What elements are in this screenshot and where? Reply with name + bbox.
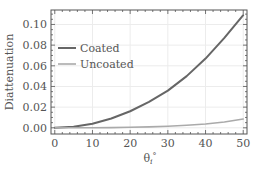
x-tick-label: 20 xyxy=(123,137,137,150)
x-tick-label: 50 xyxy=(236,137,250,150)
axis-ticks xyxy=(51,10,247,134)
legend-label-coated: Coated xyxy=(80,42,120,55)
y-tick-label: 0.10 xyxy=(23,18,48,31)
x-tick-label: 30 xyxy=(161,137,175,150)
y-tick-label: 0.04 xyxy=(23,80,48,93)
x-tick-label: 10 xyxy=(85,137,99,150)
diattenuation-chart: 01020304050 0.000.020.040.060.080.10 Dia… xyxy=(0,0,263,171)
y-tick-label: 0.00 xyxy=(23,122,48,135)
y-tick-label: 0.08 xyxy=(23,39,48,52)
y-axis-label: Diattenuation xyxy=(3,34,16,111)
x-axis-label-sup: ° xyxy=(153,151,157,160)
series-line-coated xyxy=(55,15,243,128)
legend: CoatedUncoated xyxy=(58,42,134,71)
x-tick-labels: 01020304050 xyxy=(51,137,250,150)
x-axis-label: θi° xyxy=(143,151,156,166)
plot-frame xyxy=(51,10,247,134)
x-tick-label: 40 xyxy=(199,137,213,150)
legend-label-uncoated: Uncoated xyxy=(80,58,134,71)
series-line-uncoated xyxy=(55,119,243,128)
data-series xyxy=(55,15,243,128)
y-tick-label: 0.06 xyxy=(23,60,48,73)
grid-lines xyxy=(51,10,247,134)
y-tick-label: 0.02 xyxy=(23,101,48,114)
y-tick-labels: 0.000.020.040.060.080.10 xyxy=(23,18,48,134)
x-tick-label: 0 xyxy=(51,137,58,150)
